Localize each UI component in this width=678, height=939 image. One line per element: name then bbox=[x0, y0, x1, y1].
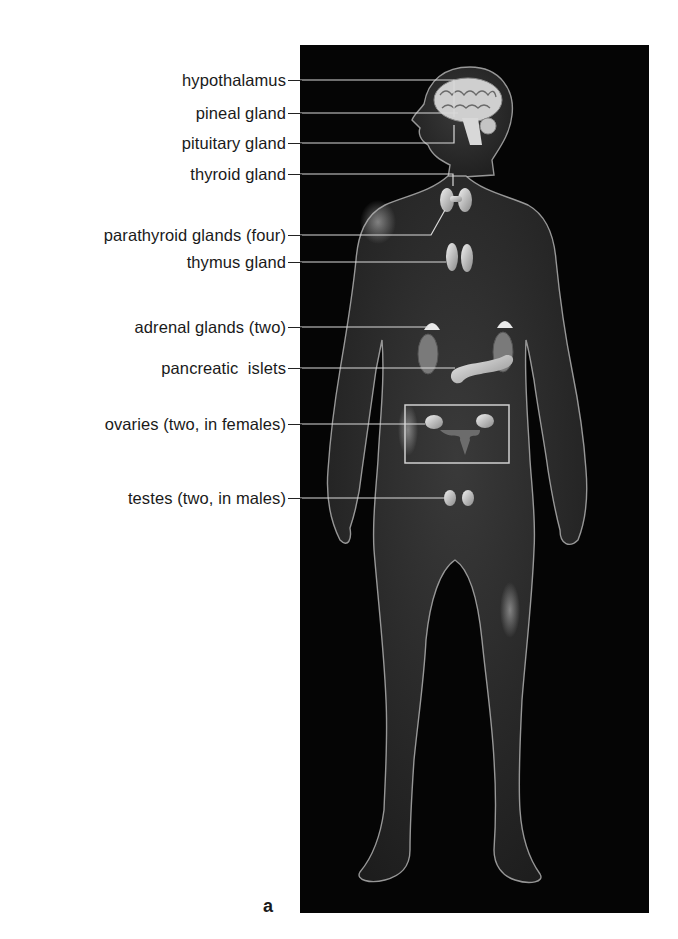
label-pineal-gland: pineal gland bbox=[196, 103, 286, 123]
label-pancreatic-islets: pancreatic islets bbox=[161, 358, 286, 378]
label-adrenal-glands: adrenal glands (two) bbox=[135, 317, 287, 337]
label-hypothalamus: hypothalamus bbox=[182, 70, 286, 90]
label-dash bbox=[288, 235, 302, 236]
label-parathyroid-glands: parathyroid glands (four) bbox=[104, 225, 286, 245]
body-silhouette bbox=[328, 67, 587, 882]
label-testes: testes (two, in males) bbox=[128, 488, 286, 508]
label-dash bbox=[288, 143, 302, 144]
label-thyroid-gland: thyroid gland bbox=[190, 164, 286, 184]
label-dash bbox=[288, 174, 302, 175]
label-dash bbox=[288, 368, 302, 369]
label-dash bbox=[288, 113, 302, 114]
label-thymus-gland: thymus gland bbox=[187, 252, 286, 272]
label-dash bbox=[288, 262, 302, 263]
label-dash bbox=[288, 498, 302, 499]
leader-line-thyroid bbox=[300, 174, 453, 186]
label-ovaries: ovaries (two, in females) bbox=[105, 414, 286, 434]
human-body-illustration bbox=[300, 45, 649, 913]
label-dash bbox=[288, 424, 302, 425]
label-dash bbox=[288, 327, 302, 328]
label-pituitary-gland: pituitary gland bbox=[182, 133, 286, 153]
label-dash bbox=[288, 80, 302, 81]
panel-letter: a bbox=[263, 896, 273, 917]
